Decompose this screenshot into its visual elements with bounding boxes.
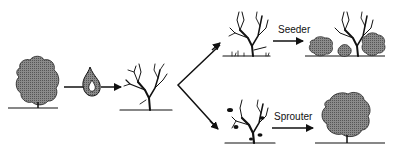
new-shrub-icon <box>338 45 351 57</box>
sprouter-label: Sprouter <box>274 111 313 122</box>
burned-skeleton <box>120 64 172 110</box>
fire-transition <box>64 67 121 96</box>
sprouter-post-fire <box>225 100 275 143</box>
seeder-label: Seeder <box>278 24 311 35</box>
seeder-recovered <box>305 12 385 56</box>
shrub-canopy-icon <box>16 56 59 105</box>
shrub-canopy-icon <box>322 92 370 136</box>
branching-arrows <box>178 43 220 129</box>
regeneration-diagram: Seeder Spr <box>0 0 395 155</box>
sprouter-recovered <box>315 92 385 143</box>
new-shrub-icon <box>309 37 332 56</box>
mature-shrub <box>8 56 59 108</box>
fork-arrow <box>178 45 220 128</box>
seeder-post-fire <box>223 12 270 56</box>
arrow-down-right-icon <box>210 121 218 129</box>
new-shrub-icon <box>362 33 385 56</box>
